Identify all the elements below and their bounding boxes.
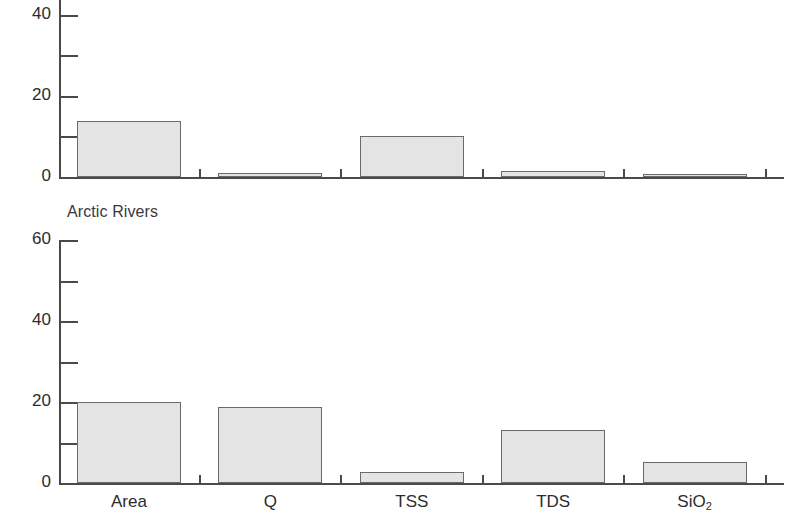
lower-plot-area: 0204060AreaQTSSTDSSiO2 xyxy=(0,0,785,532)
y-axis-tick-label: 0 xyxy=(1,472,51,492)
x-axis-tick xyxy=(199,475,201,483)
y-axis-major-tick xyxy=(61,402,78,404)
y-axis-tick-label: 60 xyxy=(1,229,51,249)
y-axis-tick-label: 40 xyxy=(1,310,51,330)
x-axis-line xyxy=(59,483,784,485)
y-axis-minor-tick xyxy=(61,281,78,283)
bar-area xyxy=(77,402,181,483)
bar-tds xyxy=(501,430,605,483)
y-axis-major-tick xyxy=(61,240,78,242)
y-axis-minor-tick xyxy=(61,362,78,364)
y-axis-minor-tick xyxy=(61,443,78,445)
x-axis-label-area: Area xyxy=(77,492,181,512)
bar-q xyxy=(218,407,322,483)
y-axis-tick-label: 20 xyxy=(1,391,51,411)
x-axis-tick xyxy=(623,475,625,483)
x-axis-tick xyxy=(482,475,484,483)
x-axis-label-tds: TDS xyxy=(501,492,605,512)
x-axis-tick xyxy=(765,475,767,483)
bar-sio2 xyxy=(643,462,747,483)
lower-bar-chart-panel: Arctic Rivers 0204060AreaQTSSTDSSiO2 xyxy=(0,0,785,532)
y-axis-major-tick xyxy=(61,321,78,323)
chart-figure: 02040 Arctic Rivers 0204060AreaQTSSTDSSi… xyxy=(0,0,785,532)
x-axis-label-tss: TSS xyxy=(360,492,464,512)
bar-tss xyxy=(360,472,464,483)
x-axis-tick xyxy=(340,475,342,483)
x-axis-label-q: Q xyxy=(218,492,322,512)
x-axis-label-sio2: SiO2 xyxy=(643,492,747,512)
